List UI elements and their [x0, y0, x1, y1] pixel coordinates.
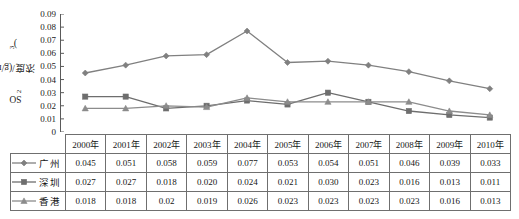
table-column-header: 2007年: [349, 135, 389, 154]
series-square: [83, 90, 493, 120]
y-axis-title-suffix: ): [13, 39, 16, 49]
table-cell: 0.058: [146, 154, 186, 173]
square-marker: [83, 94, 88, 99]
table-cell: 0.023: [308, 192, 348, 211]
table-header-row: 2000年2001年2002年2003年2004年2005年2006年2007年…: [11, 135, 511, 154]
table-cell: 0.019: [187, 192, 227, 211]
axis-group: [61, 14, 65, 132]
table-cell: 0.033: [470, 154, 510, 173]
table-cell: 0.016: [389, 173, 429, 192]
diamond-marker: [204, 52, 210, 58]
table-row: 香港0.0180.0180.020.0190.0260.0230.0230.02…: [11, 192, 511, 211]
table-body: 广州0.0450.0510.0580.0590.0770.0530.0540.0…: [11, 154, 511, 211]
diamond-marker: [163, 53, 169, 59]
table-cell: 0.018: [66, 192, 106, 211]
table-cell: 0.018: [146, 173, 186, 192]
legend-diamond-icon: [11, 158, 37, 168]
table-cell: 0.077: [227, 154, 267, 173]
y-axis-tick-marks: [61, 14, 65, 132]
table-head: 2000年2001年2002年2003年2004年2005年2006年2007年…: [11, 135, 511, 154]
table-cell: 0.046: [389, 154, 429, 173]
table-cell: 0.023: [268, 192, 308, 211]
table-cell: 0.027: [66, 173, 106, 192]
legend-series-label: 广州: [39, 156, 60, 170]
y-axis-title-prefix: SO: [9, 94, 21, 104]
table-cell: 0.045: [66, 154, 106, 173]
table-cell: 0.030: [308, 173, 348, 192]
line-chart: SO2浓度/(g/m3) 00.010.020.030.040.050.060.…: [0, 0, 519, 140]
y-axis-tick-label: 0.02: [40, 101, 56, 110]
diamond-marker: [21, 160, 27, 166]
table-row: 深圳0.0270.0270.0180.0200.0240.0210.0300.0…: [11, 173, 511, 192]
legend-cell-triangle[interactable]: 香港: [11, 192, 66, 211]
series-layer: [82, 28, 493, 120]
series-diamond: [82, 28, 493, 92]
legend-inner: 深圳: [11, 175, 65, 189]
diamond-marker: [406, 69, 412, 75]
square-marker: [21, 179, 26, 184]
legend-cell-square[interactable]: 深圳: [11, 173, 66, 192]
square-marker: [325, 90, 330, 95]
table-row: 广州0.0450.0510.0580.0590.0770.0530.0540.0…: [11, 154, 511, 173]
table-cell: 0.018: [106, 192, 146, 211]
table-cell: 0.02: [146, 192, 186, 211]
table-cell: 0.013: [470, 192, 510, 211]
table-column-header: 2008年: [389, 135, 429, 154]
table-cell: 0.054: [308, 154, 348, 173]
diamond-marker: [487, 86, 493, 92]
square-marker: [406, 108, 411, 113]
legend-triangle-icon: [11, 196, 37, 206]
table-column-header: 2010年: [470, 135, 510, 154]
square-marker: [123, 94, 128, 99]
y-axis-tick-label: 0.03: [40, 88, 56, 97]
diamond-marker: [325, 58, 331, 64]
table-cell: 0.016: [430, 192, 470, 211]
plot-area: [60, 14, 512, 132]
table-cell: 0.027: [106, 173, 146, 192]
data-table: 2000年2001年2002年2003年2004年2005年2006年2007年…: [10, 134, 511, 211]
table-cell: 0.023: [349, 173, 389, 192]
table-cell: 0.021: [268, 173, 308, 192]
legend-inner: 香港: [11, 194, 65, 208]
legend-series-label: 香港: [39, 194, 60, 208]
legend-cell-diamond[interactable]: 广州: [11, 154, 66, 173]
legend-inner: 广州: [11, 156, 65, 170]
table-column-header: 2000年: [66, 135, 106, 154]
diamond-marker: [82, 70, 88, 76]
table-cell: 0.026: [227, 192, 267, 211]
y-axis-tick-labels: 00.010.020.030.040.050.060.070.080.09: [22, 14, 58, 132]
table-column-header: 2009年: [430, 135, 470, 154]
y-axis-tick-label: 0.06: [40, 49, 56, 58]
table-column-header: 2006年: [308, 135, 348, 154]
y-axis-tick-label: 0.09: [40, 10, 56, 19]
table-cell: 0.011: [470, 173, 510, 192]
y-axis-tick-label: 0.07: [40, 36, 56, 45]
table-cell: 0.023: [349, 192, 389, 211]
legend-square-icon: [11, 177, 37, 187]
table-cell: 0.051: [349, 154, 389, 173]
table-column-header: 2001年: [106, 135, 146, 154]
y-axis-tick-label: 0.05: [40, 62, 56, 71]
diamond-marker: [365, 62, 371, 68]
table-cell: 0.013: [430, 173, 470, 192]
y-axis-tick-label: 0.08: [40, 23, 56, 32]
table-cell: 0.039: [430, 154, 470, 173]
table-corner-cell: [11, 135, 66, 154]
table-column-header: 2005年: [268, 135, 308, 154]
plot-svg: [60, 14, 512, 132]
table-cell: 0.020: [187, 173, 227, 192]
table-cell: 0.059: [187, 154, 227, 173]
legend-series-label: 深圳: [39, 175, 60, 189]
table-cell: 0.053: [268, 154, 308, 173]
table-cell: 0.023: [389, 192, 429, 211]
diamond-marker: [446, 78, 452, 84]
diamond-marker: [123, 62, 129, 68]
table-cell: 0.051: [106, 154, 146, 173]
table-column-header: 2003年: [187, 135, 227, 154]
table-column-header: 2002年: [146, 135, 186, 154]
data-table-container: 2000年2001年2002年2003年2004年2005年2006年2007年…: [10, 134, 510, 211]
y-axis-tick-label: 0.04: [40, 75, 56, 84]
table-column-header: 2004年: [227, 135, 267, 154]
y-axis-tick-label: 0.01: [40, 114, 56, 123]
so2-concentration-chart-figure: SO2浓度/(g/m3) 00.010.020.030.040.050.060.…: [0, 0, 519, 219]
